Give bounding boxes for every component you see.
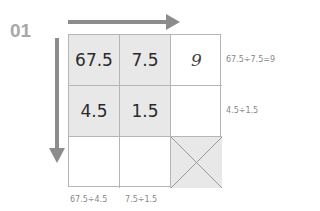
division-grid: 67.5 7.5 9 4.5 1.5 xyxy=(68,34,221,187)
note-col1: 67.5÷4.5 xyxy=(70,195,107,204)
cross-icon xyxy=(171,137,222,188)
cell-r1c2: 7.5 xyxy=(120,35,171,86)
cell-r3c2 xyxy=(120,137,171,188)
cell-r2c2: 1.5 xyxy=(120,86,171,137)
cell-r1c3: 9 xyxy=(171,35,222,86)
note-row2: 4.5÷1.5 xyxy=(226,106,258,115)
crossed-cell xyxy=(171,137,222,188)
note-row1: 67.5÷7.5=9 xyxy=(226,55,275,64)
down-arrow-icon xyxy=(49,38,65,163)
right-arrow-icon xyxy=(68,14,180,30)
cell-r2c3 xyxy=(171,86,222,137)
note-col2: 7.5÷1.5 xyxy=(125,195,157,204)
cell-r1c1: 67.5 xyxy=(69,35,120,86)
cell-r2c1: 4.5 xyxy=(69,86,120,137)
cell-r3c1 xyxy=(69,137,120,188)
